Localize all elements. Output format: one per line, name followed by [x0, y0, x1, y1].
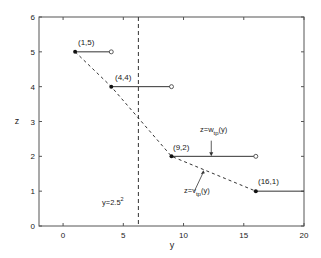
- y-tick-label: 5: [31, 48, 36, 57]
- w-tp-label: z=wtp(y): [200, 125, 228, 136]
- closed-point-marker: [109, 85, 113, 89]
- point-label-1-5: (1,5): [78, 38, 95, 47]
- closed-point-marker: [254, 189, 258, 193]
- point-label-9-2: (9,2): [173, 143, 190, 152]
- y-tick-label: 6: [31, 13, 36, 22]
- x-tick-label: 10: [179, 231, 188, 240]
- plot-area: [39, 17, 304, 226]
- y-tick-label: 2: [31, 152, 36, 161]
- x-tick-label: 0: [61, 231, 66, 240]
- y-tick-label: 3: [31, 118, 36, 127]
- y-tick-label: 4: [31, 83, 36, 92]
- reference-line-label: y=2.52: [102, 196, 124, 207]
- chart: 051015200123456 y z (1,5) (4,4) (9,2) (1…: [0, 0, 321, 258]
- tick-labels: 051015200123456: [31, 13, 309, 240]
- open-point-marker: [109, 50, 113, 54]
- w-tp-arrowhead: [209, 152, 213, 156]
- open-point-marker: [254, 154, 258, 158]
- x-tick-label: 20: [300, 231, 309, 240]
- closed-point-marker: [73, 50, 77, 54]
- x-tick-label: 5: [121, 231, 126, 240]
- y-tick-label: 0: [31, 222, 36, 231]
- v-tp-curve: [75, 52, 256, 191]
- open-point-marker: [170, 85, 174, 89]
- v-tp-label: z=vtp(y): [184, 186, 210, 197]
- y-tick-label: 1: [31, 187, 36, 196]
- y-axis-label: z: [15, 116, 20, 126]
- axis-ticks: [39, 17, 304, 226]
- closed-point-marker: [170, 154, 174, 158]
- x-tick-label: 15: [239, 231, 248, 240]
- point-label-4-4: (4,4): [115, 73, 132, 82]
- point-label-16-1: (16,1): [258, 177, 279, 186]
- x-axis-label: y: [170, 240, 175, 250]
- v-tp-arrowhead: [201, 170, 205, 174]
